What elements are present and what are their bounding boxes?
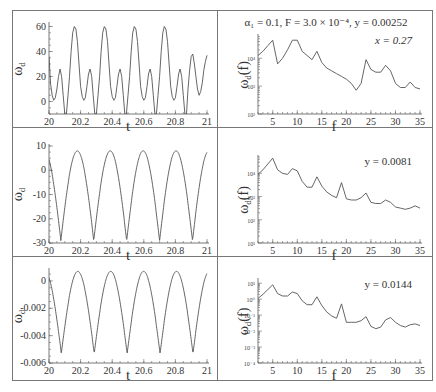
x-tick-label: 30 [390,365,400,376]
x-tick-label: 15 [317,116,327,127]
x-axis-label: t [126,118,131,134]
x-tick-label: 20 [341,245,351,256]
chart-row3-spectrum: 510152025303510⁻⁴10⁻³10⁻²10⁻¹10⁰10¹fωd(f… [236,278,425,383]
x-tick-label: 5 [270,365,275,376]
y-label-suffix: (f) [236,307,252,321]
chart-row2-spectrum: 510152025303510¹10²10³10⁴fωd(f)y = 0.008… [236,155,425,263]
figure-title: α₁ = 0.1, F = 3.0 × 10⁻⁴, y = 0.00252 [245,16,408,28]
x-tick-label: 5 [270,116,275,127]
x-tick-label: 20.2 [72,116,90,127]
x-tick-label: 20.8 [167,365,185,376]
x-tick-label: 20 [44,116,54,127]
x-tick-label: 20.6 [135,245,153,256]
y-label-base: ω [236,205,251,214]
y-tick-label: 10⁻⁴ [244,361,255,367]
panel-annotation: y = 0.0081 [365,155,412,167]
y-tick-label: -20 [33,213,46,224]
panel-annotation: y = 0.0144 [365,278,413,290]
x-tick-label: 20.6 [135,365,153,376]
x-tick-label: 15 [317,365,327,376]
x-tick-label: 21 [202,365,212,376]
x-tick-label: 20.4 [103,116,121,127]
y-tick-label: -30 [33,237,46,248]
x-tick-label: 25 [366,116,376,127]
y-label-subscript: d [17,187,27,192]
y-tick-label: -0.006 [20,357,46,368]
y-label-base: ω [10,67,25,76]
chart-row3-time: 2020.220.420.620.821-0.006-0.004-0.0020t… [10,268,212,383]
y-axis-label: ωd(f) [236,61,253,89]
y-label-subscript: d [17,62,27,67]
x-tick-label: 20.4 [103,365,121,376]
y-label-base: ω [236,80,251,89]
y-tick-label: -10 [33,189,46,200]
series-line-spectrum [258,285,420,329]
series-line-spectrum [258,40,420,90]
y-label-subscript: d [17,309,27,314]
series-line-omega_d [49,271,207,353]
y-tick-label: 10⁰ [247,297,256,303]
x-tick-label: 20.8 [167,245,185,256]
x-tick-label: 5 [270,245,275,256]
x-tick-label: 10 [292,116,302,127]
chart-row1-time: 2020.220.420.620.8210204060tωd [10,21,212,135]
y-tick-label: 60 [36,21,46,32]
x-tick-label: 15 [317,245,327,256]
y-axis-label: ωd(f) [236,307,253,335]
y-tick-label: 10² [247,112,255,118]
y-label-base: ω [236,326,251,335]
y-label-suffix: (f) [236,61,252,75]
panel-annotation: x = 0.27 [374,34,413,46]
y-tick-label: -0.004 [20,330,46,341]
x-axis-label: f [332,247,337,263]
y-tick-label: 0 [41,275,46,286]
y-label-suffix: (f) [236,186,252,200]
x-axis-label: f [332,118,337,134]
chart-row1-spectrum: 510152025303510²10³10⁴fωd(f)x = 0.27 [236,34,425,134]
x-tick-label: 35 [415,116,425,127]
y-tick-label: 10⁻³ [244,345,255,351]
y-tick-label: 10¹ [247,281,255,287]
x-tick-label: 30 [390,245,400,256]
y-tick-label: 10⁴ [247,171,255,177]
x-tick-label: 35 [415,365,425,376]
y-tick-label: 20 [36,71,46,82]
y-axis-label: ωd(f) [236,186,253,214]
x-tick-label: 20.2 [72,365,90,376]
x-tick-label: 30 [390,116,400,127]
x-tick-label: 20 [341,116,351,127]
y-tick-label: 10 [36,140,46,151]
x-axis-label: t [126,247,131,263]
x-axis-label: f [332,367,337,383]
x-tick-label: 35 [415,245,425,256]
x-tick-label: 20.2 [72,245,90,256]
x-tick-label: 25 [366,245,376,256]
y-tick-label: 40 [36,46,46,57]
series-line-omega_d [49,27,207,115]
x-tick-label: 25 [366,365,376,376]
y-tick-label: 0 [41,96,46,107]
x-tick-label: 21 [202,245,212,256]
y-label-base: ω [10,314,25,323]
y-label-base: ω [10,192,25,201]
x-tick-label: 10 [292,245,302,256]
x-tick-label: 10 [292,365,302,376]
x-tick-label: 21 [202,116,212,127]
x-tick-label: 20.8 [167,116,185,127]
y-tick-label: 0 [41,164,46,175]
x-tick-label: 20 [341,365,351,376]
y-tick-label: 10¹ [247,241,255,247]
y-tick-label: 10² [247,218,255,224]
chart-row2-time: 2020.220.420.620.821-30-20-10010tωd [10,140,212,263]
figure: α₁ = 0.1, F = 3.0 × 10⁻⁴, y = 0.00252 20… [0,0,436,392]
x-tick-label: 20.4 [103,245,121,256]
x-tick-label: 20.6 [135,116,153,127]
series-line-omega_d [49,151,207,241]
